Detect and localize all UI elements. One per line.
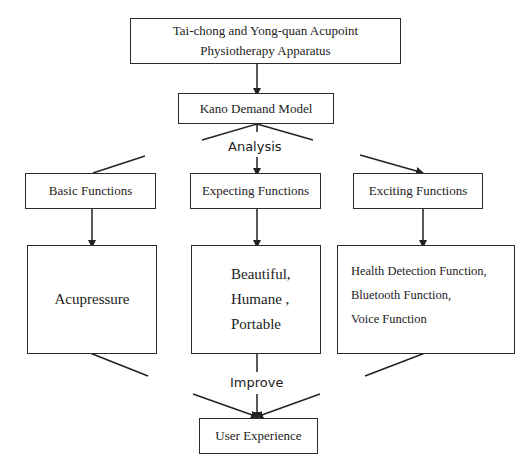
analysis-text: Analysis (228, 139, 282, 154)
expecting-details-box: Beautiful, Humane , Portable (191, 245, 321, 354)
exciting-functions-box: Exciting Functions (353, 173, 483, 209)
acupressure-box: Acupressure (27, 245, 157, 354)
detail-bluetooth: Bluetooth Function, (351, 283, 451, 307)
kano-model-box: Kano Demand Model (178, 93, 334, 124)
exciting-functions-label: Exciting Functions (369, 183, 468, 199)
basic-functions-box: Basic Functions (25, 173, 156, 209)
connector-lines (0, 0, 532, 473)
title-line-1: Tai-chong and Yong-quan Acupoint (173, 21, 358, 41)
detail-portable: Portable (231, 312, 281, 337)
kano-flow-diagram: Tai-chong and Yong-quan Acupoint Physiot… (0, 0, 532, 473)
user-experience-box: User Experience (199, 418, 318, 454)
detail-humane: Humane , (231, 287, 289, 312)
improve-label: Improve (228, 375, 285, 390)
title-box: Tai-chong and Yong-quan Acupoint Physiot… (130, 18, 401, 64)
expecting-functions-box: Expecting Functions (190, 173, 321, 209)
exciting-details-box: Health Detection Function, Bluetooth Fun… (337, 245, 515, 354)
acupressure-label: Acupressure (55, 291, 130, 308)
improve-text: Improve (230, 375, 283, 390)
analysis-label: Analysis (226, 139, 284, 154)
basic-functions-label: Basic Functions (49, 183, 132, 199)
expecting-functions-label: Expecting Functions (202, 183, 309, 199)
title-line-2: Physiotherapy Apparatus (200, 41, 330, 61)
user-experience-label: User Experience (215, 428, 301, 444)
detail-voice: Voice Function (351, 307, 427, 331)
detail-beautiful: Beautiful, (231, 262, 291, 287)
detail-health-detection: Health Detection Function, (351, 259, 487, 283)
kano-model-label: Kano Demand Model (200, 101, 313, 117)
